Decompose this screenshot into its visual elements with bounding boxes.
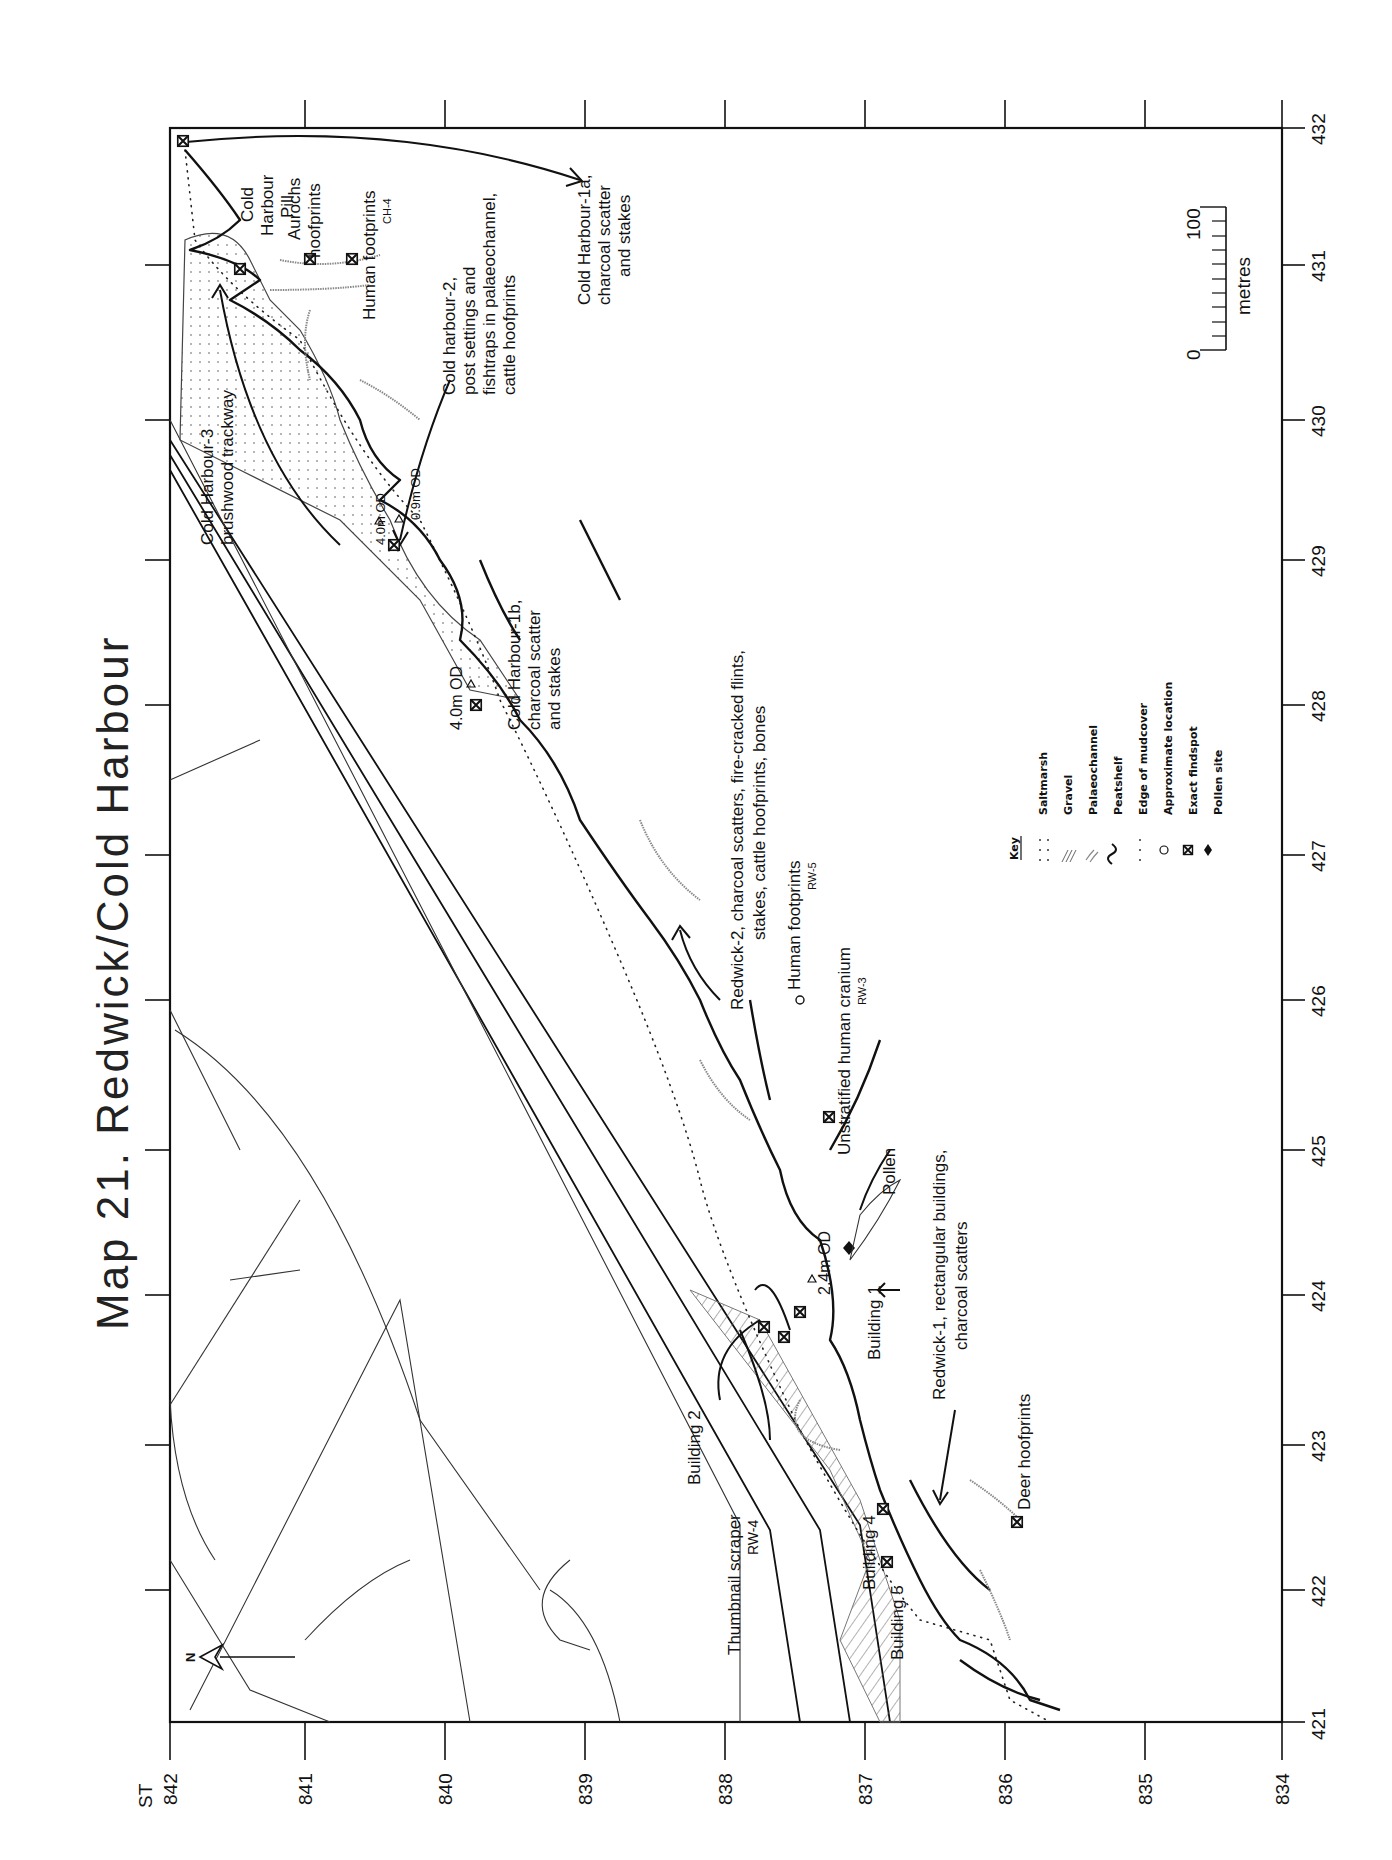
- svg-text:428: 428: [1308, 690, 1329, 722]
- label-redwick-2: Redwick-2, charcoal scatters, fire-crack…: [728, 650, 769, 1010]
- svg-text:Building 4: Building 4: [860, 1515, 879, 1590]
- svg-text:Pollen site: Pollen site: [1212, 750, 1225, 815]
- left-ticks: [145, 265, 170, 1590]
- svg-text:charcoal scatter: charcoal scatter: [525, 610, 544, 730]
- svg-text:Map 21. Redwick/Cold Harbour: Map 21. Redwick/Cold Harbour: [88, 635, 137, 1330]
- svg-text:429: 429: [1308, 545, 1329, 577]
- legend-item-approximate: Approximate location: [1160, 682, 1175, 854]
- legend-item-peatshelf: Peatshelf: [1108, 756, 1125, 864]
- svg-text:4.0m OD: 4.0m OD: [448, 666, 465, 730]
- map-frame: [170, 128, 1282, 1722]
- svg-text:stakes, cattle hoofprints, bon: stakes, cattle hoofprints, bones: [750, 706, 769, 940]
- svg-text:Aurochs: Aurochs: [285, 178, 304, 240]
- legend-item-mudcover: Edge of mudcover: [1137, 702, 1150, 861]
- label-human-footprints-rw5: Human footprints RW-5: [785, 861, 818, 990]
- label-building-2: Building 2: [685, 1410, 704, 1485]
- legend-item-saltmarsh: Saltmarsh: [1037, 752, 1050, 861]
- label-human-footprints-ch4: Human footprints CH-4: [360, 191, 393, 320]
- svg-text:835: 835: [1135, 1773, 1156, 1805]
- svg-text:Gravel: Gravel: [1062, 775, 1075, 815]
- svg-text:post settings and: post settings and: [460, 266, 479, 395]
- svg-text:hoofprints: hoofprints: [305, 183, 324, 258]
- svg-text:Building 5: Building 5: [888, 1585, 907, 1660]
- svg-text:838: 838: [715, 1773, 736, 1805]
- svg-text:and stakes: and stakes: [545, 648, 564, 730]
- palaeochannels: [270, 255, 1020, 1640]
- label-thumbnail-scraper: Thumbnail scraper RW-4: [725, 1514, 761, 1655]
- north-arrow: N: [183, 1645, 295, 1669]
- label-od-4-0-b: 4.0m OD: [448, 666, 465, 730]
- scale-unit: metres: [1233, 257, 1254, 315]
- scale-bar: 100 0 metres: [1183, 207, 1254, 360]
- svg-text:Harbour: Harbour: [258, 174, 277, 236]
- svg-text:430: 430: [1308, 405, 1329, 437]
- northing-axis: ST 842 841 840 839 838 837 836 835 834: [135, 1722, 1293, 1808]
- svg-text:842: 842: [160, 1773, 181, 1805]
- north-label: N: [183, 1653, 198, 1662]
- archaeological-map: Map 21. Redwick/Cold Harbour: [0, 0, 1392, 1860]
- svg-text:Cold: Cold: [238, 187, 257, 222]
- label-od-0-9: 0.9m OD: [408, 468, 423, 520]
- svg-text:Palaeochannel: Palaeochannel: [1087, 725, 1100, 815]
- svg-text:424: 424: [1308, 1280, 1329, 1312]
- svg-text:836: 836: [995, 1773, 1016, 1805]
- label-od-2-4: 2.4m OD: [816, 1231, 833, 1295]
- svg-text:RW-3: RW-3: [856, 977, 868, 1005]
- svg-text:425: 425: [1308, 1135, 1329, 1167]
- svg-text:432: 432: [1308, 113, 1329, 145]
- svg-text:427: 427: [1308, 840, 1329, 872]
- grid-prefix: ST: [135, 1783, 156, 1808]
- svg-text:cattle hoofprints: cattle hoofprints: [500, 275, 519, 395]
- svg-text:2.4m OD: 2.4m OD: [816, 1231, 833, 1295]
- label-cold-harbour-1b: Cold Harbour-1b, charcoal scatter and st…: [505, 600, 564, 730]
- svg-text:837: 837: [855, 1773, 876, 1805]
- field-boundaries: [170, 740, 620, 1722]
- svg-text:Redwick-1, rectangular buildin: Redwick-1, rectangular buildings,: [930, 1150, 949, 1400]
- svg-text:839: 839: [575, 1773, 596, 1805]
- svg-text:Peatshelf: Peatshelf: [1112, 756, 1125, 815]
- label-building-5: Building 5: [888, 1585, 907, 1660]
- label-cold-harbour-2: Cold harbour-2, post settings and fishtr…: [440, 193, 519, 395]
- svg-text:Deer hoofprints: Deer hoofprints: [1015, 1394, 1034, 1510]
- svg-text:422: 422: [1308, 1575, 1329, 1607]
- map-title: Map 21. Redwick/Cold Harbour: [88, 635, 137, 1330]
- label-redwick-1: Redwick-1, rectangular buildings, charco…: [930, 1150, 971, 1400]
- svg-text:Human footprints: Human footprints: [785, 861, 804, 990]
- label-deer-hoofprints: Deer hoofprints: [1015, 1394, 1034, 1510]
- svg-text:431: 431: [1308, 250, 1329, 282]
- svg-text:Thumbnail scraper: Thumbnail scraper: [725, 1514, 744, 1655]
- label-cold-harbour-1a: Cold Harbour-1a, charcoal scatter and st…: [575, 175, 634, 305]
- svg-text:Cold Harbour-1a,: Cold Harbour-1a,: [575, 175, 594, 305]
- svg-text:Building 1: Building 1: [865, 1285, 884, 1360]
- svg-text:Building 2: Building 2: [685, 1410, 704, 1485]
- scale-start: 0: [1183, 349, 1204, 360]
- svg-text:421: 421: [1308, 1708, 1329, 1740]
- svg-text:0.9m OD: 0.9m OD: [408, 468, 423, 520]
- label-building-1: Building 1: [865, 1285, 884, 1360]
- svg-text:Redwick-2, charcoal scatters,: Redwick-2, charcoal scatters, fire-crack…: [728, 650, 747, 1010]
- svg-text:840: 840: [435, 1773, 456, 1805]
- legend-item-gravel: Gravel: [1062, 775, 1076, 862]
- svg-text:4.0m OD: 4.0m OD: [373, 493, 388, 545]
- label-od-4-0-a: 4.0m OD: [373, 493, 388, 545]
- svg-text:brushwood trackway: brushwood trackway: [218, 390, 237, 545]
- svg-text:charcoal scatters: charcoal scatters: [952, 1222, 971, 1351]
- svg-text:Pollen: Pollen: [880, 1148, 899, 1195]
- legend-item-findspot: Exact findspot: [1184, 726, 1201, 854]
- svg-text:834: 834: [1272, 1773, 1293, 1805]
- svg-text:423: 423: [1308, 1430, 1329, 1462]
- svg-text:Cold Harbour-3: Cold Harbour-3: [198, 429, 217, 545]
- label-aurochs-hoofprints: Aurochs hoofprints: [285, 178, 324, 258]
- top-ticks: [305, 100, 1282, 128]
- svg-text:Approximate location: Approximate location: [1162, 682, 1175, 815]
- svg-text:Exact findspot: Exact findspot: [1187, 726, 1200, 815]
- approximate-location-rw5: [796, 996, 804, 1004]
- label-pollen: Pollen: [880, 1148, 899, 1195]
- legend-item-palaeochannel: Palaeochannel: [1086, 725, 1100, 862]
- svg-text:fishtraps in palaeochannel,: fishtraps in palaeochannel,: [480, 193, 499, 395]
- scale-end: 100: [1183, 208, 1204, 240]
- svg-text:RW-5: RW-5: [806, 862, 818, 890]
- legend-heading: Key: [1008, 837, 1021, 860]
- svg-text:charcoal scatter: charcoal scatter: [595, 185, 614, 305]
- svg-text:Saltmarsh: Saltmarsh: [1037, 752, 1050, 815]
